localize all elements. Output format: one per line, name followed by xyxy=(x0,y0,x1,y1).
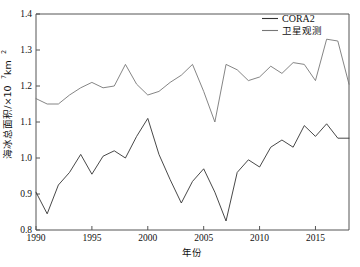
legend-label-satellite: 卫星观测 xyxy=(282,25,322,36)
legend-label-cora2: CORA2 xyxy=(282,13,315,24)
x-tick-label: 2005 xyxy=(194,233,213,243)
y-axis-title-unit-exponent: 2 xyxy=(0,50,8,54)
x-tick-label: 2000 xyxy=(138,233,157,243)
y-tick-label: 1.3 xyxy=(20,45,32,55)
y-axis-title-main: 海冰总面积/×10 xyxy=(2,85,13,158)
chart-figure: 0.80.91.01.11.21.31.4 199019952000200520… xyxy=(0,0,360,267)
x-tick-label: 2010 xyxy=(250,233,269,243)
series-line-卫星观测 xyxy=(36,39,349,122)
line-chart-svg: 0.80.91.01.11.21.31.4 199019952000200520… xyxy=(0,0,360,267)
y-tick-label: 1.4 xyxy=(20,9,32,19)
x-tick-label: 1990 xyxy=(27,233,46,243)
x-axis-tick-labels: 199019952000200520102015 xyxy=(27,233,326,243)
y-axis-tick-labels: 0.80.91.01.11.21.31.4 xyxy=(20,9,32,235)
x-tick-label: 1995 xyxy=(82,233,101,243)
series-line-CORA2 xyxy=(36,118,349,221)
y-axis-ticks xyxy=(36,14,40,230)
y-axis-title-unit: km xyxy=(2,60,13,75)
y-tick-label: 1.1 xyxy=(20,117,32,127)
x-tick-label: 2015 xyxy=(306,233,325,243)
y-tick-label: 1.0 xyxy=(20,153,32,163)
x-axis-title: 年份 xyxy=(182,247,202,258)
y-tick-label: 1.2 xyxy=(20,81,32,91)
x-axis-ticks xyxy=(36,226,315,230)
plot-frame xyxy=(36,14,349,230)
series-group xyxy=(36,39,349,221)
chart-legend: CORA2 卫星观测 xyxy=(262,13,322,36)
y-tick-label: 0.9 xyxy=(20,189,32,199)
y-axis-title: 海冰总面积/×10 7 km 2 xyxy=(0,50,13,159)
